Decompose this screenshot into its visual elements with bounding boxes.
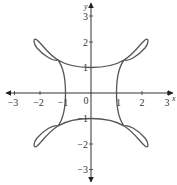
x-tick-label: −3	[8, 97, 19, 108]
x-tick-label: −1	[58, 97, 69, 108]
x-tick-label: 2	[140, 97, 145, 108]
y-tick-label: 3	[83, 11, 88, 22]
y-tick-label: 1	[83, 62, 88, 73]
origin-label: 0	[84, 95, 89, 106]
x-tick-label: 1	[116, 97, 121, 108]
y-axis-label: y	[83, 2, 88, 11]
x-axis-label: x	[171, 94, 176, 103]
x-tick-labels: −3 −2 −1 0 1 2 3	[8, 95, 170, 108]
plot-area: −3 −2 −1 0 1 2 3 3 2 1 −1 −2 −3 y x	[0, 0, 177, 185]
y-tick-label: −1	[77, 113, 88, 124]
y-tick-label: 2	[83, 37, 88, 48]
x-tick-label: −2	[33, 97, 44, 108]
x-tick-label: 3	[165, 97, 170, 108]
y-tick-label: −2	[77, 139, 88, 150]
y-tick-label: −3	[77, 164, 88, 175]
